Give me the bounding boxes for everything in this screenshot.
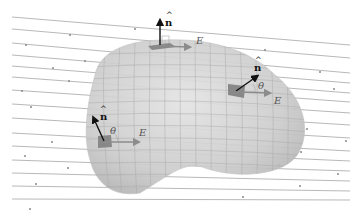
right-theta-label: θ [258,80,264,91]
top-e-label: E [195,35,204,46]
flux-diagram: ^ n E ^ n θ E ^ n θ E [0,0,362,217]
left-theta-label: θ [110,125,116,136]
left-e-label: E [138,127,147,138]
diagram-svg: ^ n E ^ n θ E ^ n θ E [0,0,362,217]
right-field-vector [236,92,268,93]
left-n-label: n [100,111,108,122]
right-n-label: n [254,62,262,73]
gaussian-surface [85,40,310,200]
top-field-vector [160,46,188,47]
right-e-label: E [273,95,282,106]
top-n-label: n [165,17,173,28]
